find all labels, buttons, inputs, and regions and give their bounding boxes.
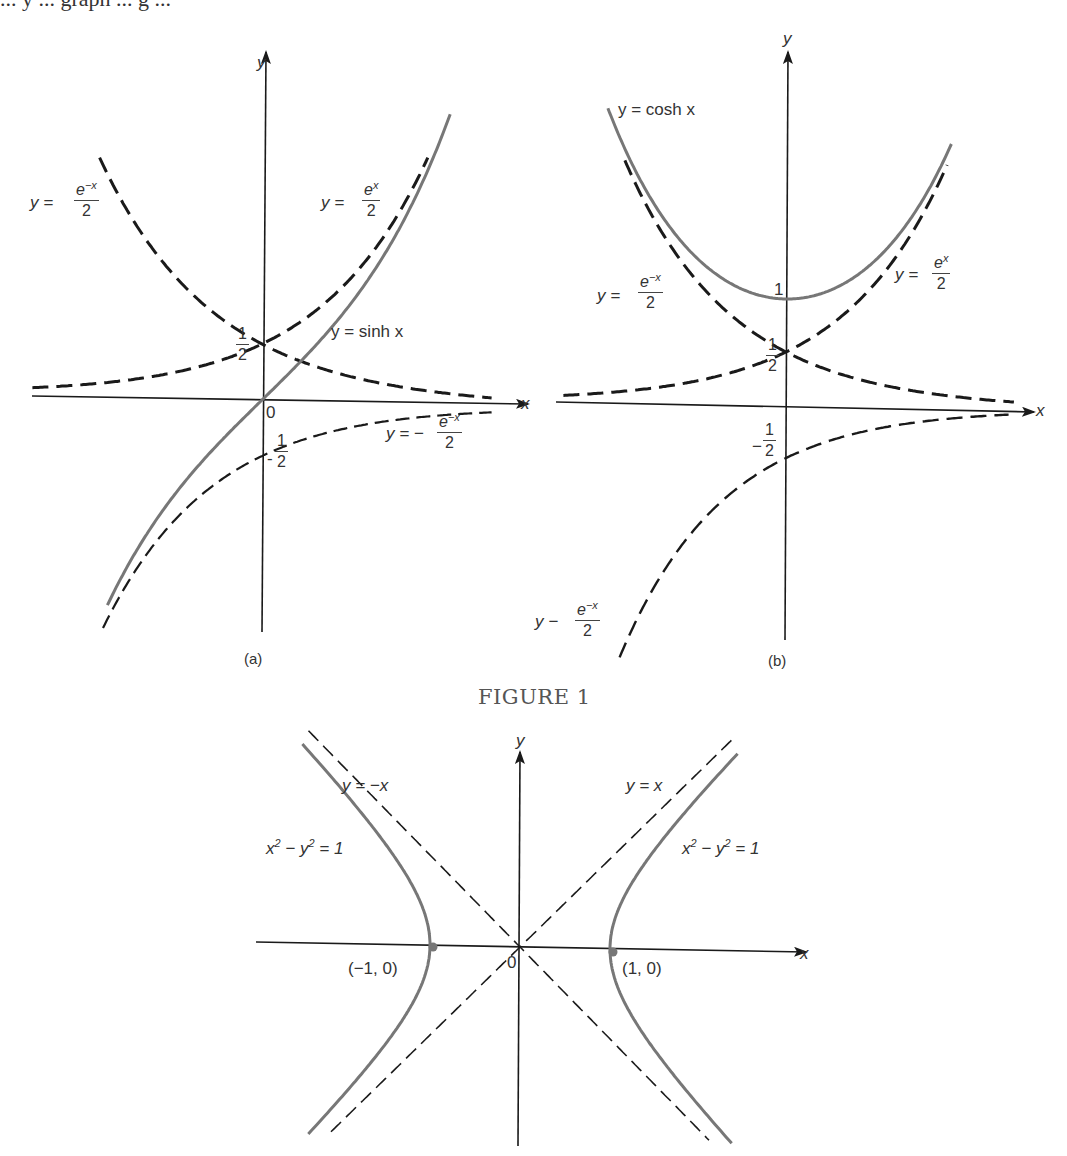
panel-a-origin-label: 0 — [266, 404, 275, 421]
panel-c-hyp-right-label: x2 − y2 = 1 — [682, 838, 759, 857]
panel-c-vertex-left-label: (−1, 0) — [348, 960, 398, 977]
panel-b-neg-half-label: 1 2 — [763, 422, 776, 459]
panel-c-x-axis-label: x — [800, 945, 809, 962]
emx-over-2-curve — [625, 160, 1014, 402]
panel-b-plot — [556, 52, 1034, 657]
figure-title: FIGURE 1 — [478, 685, 591, 709]
panel-b-x-axis-label: x — [1036, 402, 1045, 419]
panel-a-emx-label-lhs: y = — [30, 194, 53, 211]
panel-a-emx-label-frac: e−x 2 — [74, 180, 99, 219]
panel-a-plot — [32, 52, 528, 632]
panel-c-vertex-right-label: (1, 0) — [622, 960, 662, 977]
vertex-right-point — [609, 948, 618, 957]
neg-emx-over-2-curve — [620, 415, 1009, 658]
plots-canvas — [0, 0, 1067, 1156]
panel-b-one-label: 1 — [774, 281, 783, 298]
panel-a-neg-half-label: 1 2 — [275, 433, 288, 470]
hyperbola-left-branch — [302, 744, 430, 1134]
panel-a-neg-emx-label-lhs: y = − — [386, 425, 424, 442]
x-axis-arrow — [556, 402, 1034, 412]
panel-b-emx-label-frac: e−x 2 — [638, 272, 663, 311]
sinh-curve — [107, 114, 450, 605]
y-axis-arrow — [262, 52, 266, 632]
panel-a-neg-emx-label-frac: e−x 2 — [437, 412, 462, 451]
panel-b-emx-label-lhs: y = — [597, 287, 620, 304]
panel-a-neg-half-sign: - — [267, 450, 273, 467]
ex-over-2-curve — [563, 165, 947, 395]
panel-c-neg-diag-label: y = −x — [342, 777, 388, 794]
panel-c-y-axis-label: y — [516, 732, 525, 749]
panel-c-plot — [256, 731, 806, 1146]
x-axis-arrow — [256, 942, 806, 952]
panel-b-y-axis-label: y — [783, 30, 792, 47]
emx-over-2-curve — [100, 158, 492, 398]
panel-a-x-axis-label: x — [521, 395, 530, 412]
panel-b-ex-label-lhs: y = — [895, 266, 918, 283]
vertex-left-point — [429, 943, 438, 952]
panel-b-neg-emx-label-frac: e−x 2 — [575, 600, 600, 639]
panel-b-neg-emx-label-lhs: y − — [535, 613, 558, 630]
panel-b-caption: (b) — [768, 652, 786, 669]
panel-a-ex-label-lhs: y = — [321, 194, 344, 211]
panel-a-sinh-label: y = sinh x — [331, 323, 403, 340]
x-axis-arrow — [32, 396, 528, 404]
y-axis-arrow — [785, 52, 788, 640]
panel-b-neg-half-sign: − — [752, 438, 762, 455]
panel-c-hyp-left-label: x2 − y2 = 1 — [266, 838, 343, 857]
neg-emx-over-2-curve — [103, 412, 492, 628]
figure-page: ... y ... graph ... g ... y x 0 1 2 - 1 … — [0, 0, 1067, 1156]
panel-c-pos-diag-label: y = x — [626, 777, 662, 794]
panel-a-y-axis-label: y — [257, 54, 266, 71]
panel-a-half-label: 1 2 — [236, 326, 249, 363]
panel-b-ex-label-frac: ex 2 — [932, 253, 950, 292]
panel-a-ex-label-frac: ex 2 — [362, 180, 380, 219]
panel-a-caption: (a) — [244, 650, 262, 667]
panel-c-origin-label: 0 — [507, 954, 516, 971]
panel-b-cosh-label: y = cosh x — [618, 101, 695, 118]
panel-b-half-label: 1 2 — [766, 337, 779, 374]
